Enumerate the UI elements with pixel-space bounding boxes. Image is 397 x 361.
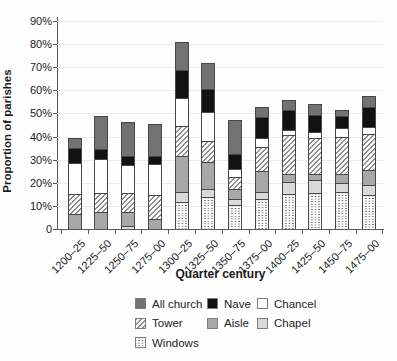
bar-segment-windows-8 — [282, 194, 296, 229]
bar-segment-chancel-9 — [308, 132, 322, 138]
bar-segment-nave-6 — [228, 154, 242, 169]
y-tick — [53, 229, 57, 230]
bar-segment-aisle-11 — [362, 170, 376, 185]
bar-segment-chancel-5 — [201, 112, 215, 141]
y-axis-line — [57, 17, 58, 229]
bar-segment-chancel-4 — [175, 98, 189, 126]
bar-segment-nave-4 — [175, 70, 189, 99]
bar-segment-allchurch-7 — [255, 107, 269, 117]
bar-segment-allchurch-5 — [201, 63, 215, 90]
bar-segment-windows-11 — [362, 195, 376, 229]
legend-item-aisle: Aisle — [207, 317, 249, 330]
bar-segment-allchurch-8 — [282, 100, 296, 110]
bar-segment-aisle-1 — [94, 212, 108, 229]
y-tick-label: 60% — [14, 85, 52, 96]
bar-segment-chapel-8 — [282, 182, 296, 195]
bar-segment-chapel-10 — [335, 183, 349, 192]
gridline-70 — [57, 67, 383, 68]
y-tick-label: 90% — [14, 16, 52, 27]
bar-segment-tower-4 — [175, 126, 189, 156]
y-tick — [53, 90, 57, 91]
bar-segment-chapel-9 — [308, 180, 322, 193]
x-tick — [115, 230, 116, 234]
y-tick-label: 20% — [14, 178, 52, 189]
bar-segment-nave-0 — [68, 148, 82, 163]
bar-segment-windows-6 — [228, 205, 242, 229]
legend-item-allchurch: All church — [135, 297, 203, 310]
bar-segment-windows-10 — [335, 192, 349, 229]
bar-segment-tower-10 — [335, 137, 349, 174]
x-tick — [356, 230, 357, 234]
x-tick — [168, 230, 169, 234]
legend-item-tower: Tower — [135, 317, 183, 330]
y-tick — [53, 44, 57, 45]
x-axis-line — [57, 229, 384, 230]
gridline-50 — [57, 113, 383, 114]
bar-segment-windows-9 — [308, 193, 322, 229]
bar-segment-chancel-2 — [121, 165, 135, 193]
y-tick — [53, 137, 57, 138]
gridline-60 — [57, 90, 383, 91]
bar-segment-tower-5 — [201, 141, 215, 162]
bar-segment-aisle-4 — [175, 156, 189, 192]
y-tick-label: 30% — [14, 155, 52, 166]
legend-item-nave: Nave — [207, 297, 251, 310]
bar-segment-tower-8 — [282, 135, 296, 173]
legend-label: Chancel — [274, 298, 316, 310]
bar-segment-nave-10 — [335, 116, 349, 129]
legend-item-chapel: Chapel — [257, 317, 310, 330]
y-tick — [53, 67, 57, 68]
x-tick — [88, 230, 89, 234]
gridline-80 — [57, 44, 383, 45]
y-tick-label: 80% — [14, 39, 52, 50]
bar-segment-nave-11 — [362, 107, 376, 128]
y-tick — [53, 160, 57, 161]
legend-label: Chapel — [274, 317, 310, 329]
bar-segment-nave-2 — [121, 156, 135, 165]
y-tick — [53, 21, 57, 22]
bar-segment-chancel-3 — [148, 164, 162, 195]
legend-swatch-aisle — [207, 318, 218, 329]
bar-segment-windows-5 — [201, 197, 215, 229]
bar-segment-tower-7 — [255, 147, 269, 171]
x-tick — [329, 230, 330, 234]
bar-segment-nave-1 — [94, 149, 108, 158]
bar-segment-nave-7 — [255, 117, 269, 138]
legend-item-chancel: Chancel — [257, 297, 316, 310]
bar-segment-windows-7 — [255, 199, 269, 229]
bar-segment-tower-9 — [308, 138, 322, 174]
legend-label: All church — [152, 298, 203, 310]
legend-item-windows: Windows — [135, 336, 199, 349]
y-tick-label: 40% — [14, 132, 52, 143]
x-tick — [302, 230, 303, 234]
bar-segment-chapel-11 — [362, 185, 376, 195]
x-tick — [222, 230, 223, 234]
chart-legend: All churchNaveChancelTowerAisleChapelWin… — [135, 297, 365, 353]
bar-segment-nave-9 — [308, 115, 322, 132]
bar-segment-aisle-5 — [201, 162, 215, 189]
bar-segment-chapel-7 — [255, 192, 269, 199]
bar-segment-chapel-4 — [175, 192, 189, 202]
bar-segment-allchurch-2 — [121, 122, 135, 157]
bar-segment-chapel-2 — [121, 226, 135, 229]
bar-segment-windows-4 — [175, 202, 189, 229]
x-tick — [195, 230, 196, 234]
bar-segment-allchurch-6 — [228, 120, 242, 154]
legend-label: Tower — [152, 317, 183, 329]
stacked-bar-chart-figure: Proportion of parishes Quarter century 0… — [0, 0, 397, 361]
gridline-90 — [57, 21, 383, 22]
y-tick — [53, 113, 57, 114]
bar-segment-nave-8 — [282, 110, 296, 130]
bar-segment-chapel-6 — [228, 199, 242, 205]
bar-segment-allchurch-3 — [148, 124, 162, 156]
bar-segment-aisle-8 — [282, 174, 296, 182]
bar-segment-tower-3 — [148, 195, 162, 218]
bar-segment-chancel-0 — [68, 163, 82, 194]
x-tick — [61, 230, 62, 234]
bar-segment-aisle-9 — [308, 174, 322, 181]
legend-swatch-allchurch — [135, 298, 146, 309]
bar-segment-chancel-10 — [335, 128, 349, 136]
bar-segment-allchurch-10 — [335, 110, 349, 116]
bar-segment-aisle-2 — [121, 212, 135, 226]
y-tick-label: 50% — [14, 108, 52, 119]
